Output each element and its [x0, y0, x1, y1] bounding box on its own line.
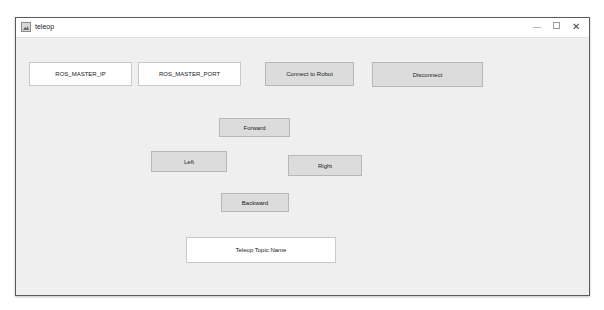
window-title: teleop — [35, 21, 54, 33]
maximize-button[interactable] — [549, 20, 563, 34]
close-button[interactable]: ✕ — [569, 20, 583, 34]
teleop-window: teleop — ✕ Connect to Robot Disconnect F… — [15, 17, 590, 296]
disconnect-button[interactable]: Disconnect — [372, 62, 483, 87]
app-figure-icon — [21, 22, 31, 32]
forward-button[interactable]: Forward — [219, 118, 290, 137]
app-content: Connect to Robot Disconnect Forward Left… — [16, 38, 589, 295]
ros-master-ip-field[interactable] — [29, 62, 132, 86]
left-button[interactable]: Left — [151, 151, 227, 172]
maximize-icon — [553, 22, 560, 29]
right-button[interactable]: Right — [288, 155, 362, 176]
title-bar[interactable]: teleop — ✕ — [16, 18, 589, 38]
ros-master-port-field[interactable] — [138, 62, 241, 86]
backward-button[interactable]: Backward — [221, 193, 289, 212]
teleop-topic-name-field[interactable] — [186, 237, 336, 263]
minimize-button[interactable]: — — [530, 20, 544, 34]
connect-to-robot-button[interactable]: Connect to Robot — [265, 62, 354, 86]
